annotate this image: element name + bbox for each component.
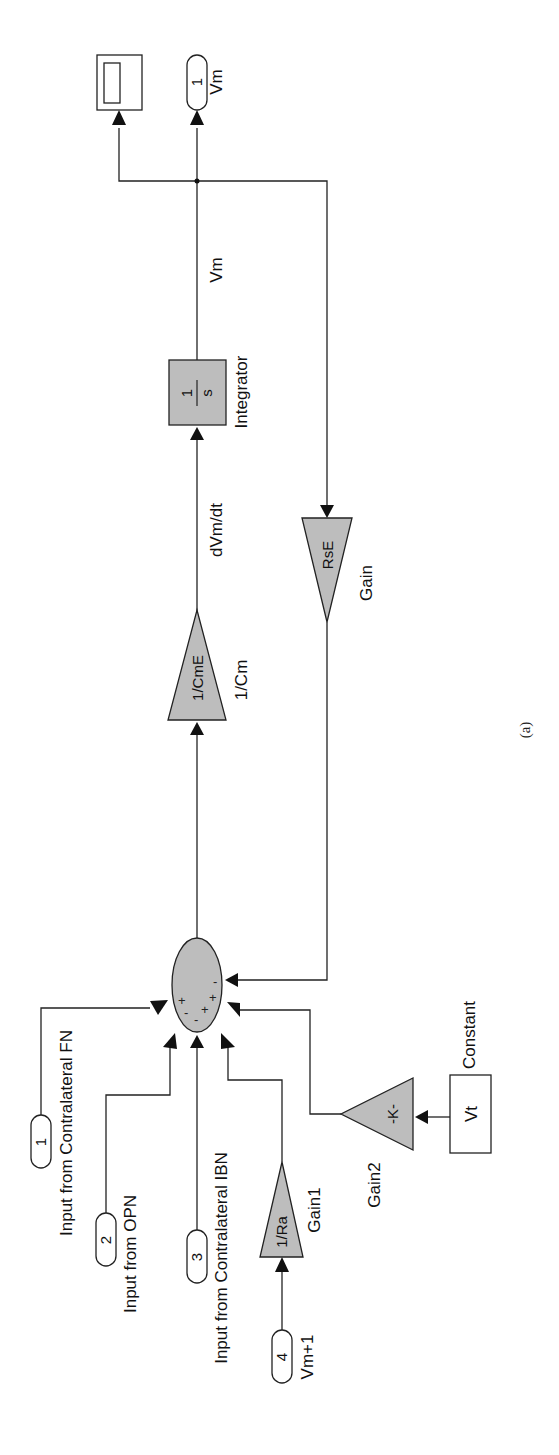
signal-label-vm: Vm	[207, 257, 226, 283]
arrow-outport	[190, 110, 204, 125]
gain2-label: Gain2	[365, 1162, 384, 1207]
figure-caption: (a)	[517, 722, 534, 739]
inport-4[interactable]: 4 Vm+1	[272, 1330, 317, 1383]
outport-label: Vm	[207, 69, 226, 95]
arrow-gain1	[221, 1033, 235, 1049]
gain-rs-label: Gain	[357, 565, 376, 601]
integrator-numerator: 1	[178, 389, 195, 397]
sum-sign: +	[178, 993, 186, 1008]
gain1-value: 1/Ra	[273, 1216, 290, 1248]
sum-sign: -	[194, 1012, 198, 1027]
inport-1-label: Input from Contralateral FN	[57, 1030, 76, 1236]
integrator-block[interactable]: 1 s Integrator	[169, 355, 251, 428]
sum-sign: +	[209, 990, 217, 1005]
inport-2[interactable]: 2 Input from OPN	[96, 1195, 140, 1313]
arrow-constant	[415, 1110, 428, 1124]
integrator-denominator: s	[198, 389, 215, 397]
gain-cm-block[interactable]: 1/CmE 1/Cm	[168, 610, 251, 720]
simulink-diagram: 1 Vm Vm 1 s Integrator dVm/dt 1/CmE 1/Cm…	[0, 0, 559, 1455]
wire-inport2-to-sum	[106, 1045, 170, 1213]
arrow-integrator	[190, 427, 204, 440]
sum-sign: +	[201, 1002, 209, 1017]
wire-junction-branch	[119, 128, 327, 505]
inport-1[interactable]: 1 Input from Contralateral FN	[31, 1030, 76, 1236]
arrow-scope	[112, 110, 126, 125]
arrow-inport4	[275, 1257, 289, 1272]
gain1-label: Gain1	[305, 1187, 324, 1232]
arrow-gaincm	[190, 722, 204, 735]
gain-cm-value: 1/CmE	[189, 655, 206, 701]
gain2-value: -K-	[384, 1104, 401, 1124]
outport-vm[interactable]: 1 Vm	[187, 55, 226, 110]
sum-block[interactable]: - + + - - +	[172, 938, 222, 1032]
gain-rs-value: RsE	[319, 541, 336, 569]
integrator-label: Integrator	[232, 355, 251, 428]
wire-gain2-to-sum	[240, 1010, 341, 1114]
inport-2-number: 2	[97, 1236, 114, 1244]
inport-1-number: 1	[32, 1138, 49, 1146]
constant-block[interactable]: Vt Constant	[450, 1001, 491, 1153]
inport-3-number: 3	[188, 1253, 205, 1261]
outport-number: 1	[188, 78, 205, 86]
junction-dot	[195, 179, 200, 184]
constant-value: Vt	[462, 1106, 481, 1122]
wire-gain1-to-sum	[228, 1045, 282, 1162]
gain2-block[interactable]: -K- Gain2	[341, 1078, 413, 1208]
sum-sign: -	[213, 974, 217, 989]
inport-4-label: Vm+1	[298, 1335, 317, 1380]
wire-feedback-to-sum	[238, 622, 327, 980]
inport-3-label: Input from Contralateral IBN	[212, 1152, 231, 1364]
arrow-inport1	[150, 1000, 168, 1015]
arrow-inport3	[190, 1035, 204, 1048]
gain-rs-block[interactable]: RsE Gain	[302, 518, 376, 622]
inport-4-number: 4	[273, 1353, 290, 1361]
scope-block[interactable]	[97, 55, 142, 110]
constant-label: Constant	[460, 1001, 479, 1069]
gain1-block[interactable]: 1/Ra Gain1	[260, 1162, 324, 1257]
inport-2-label: Input from OPN	[121, 1195, 140, 1313]
arrow-feedback	[225, 973, 238, 987]
gain-cm-label: 1/Cm	[232, 660, 251, 701]
inport-3[interactable]: 3 Input from Contralateral IBN	[187, 1152, 231, 1364]
signal-label-dvmdt: dVm/dt	[207, 503, 226, 557]
arrow-inport2	[163, 1033, 177, 1049]
arrow-gain2	[227, 1002, 240, 1017]
arrow-gainrs	[320, 505, 334, 518]
